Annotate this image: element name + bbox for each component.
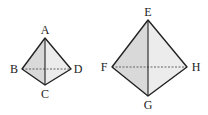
small-left-face bbox=[22, 38, 45, 85]
large-right-face bbox=[148, 20, 187, 96]
large-left-face bbox=[112, 20, 148, 96]
vertex-label-a: A bbox=[41, 23, 50, 37]
vertex-label-c: C bbox=[41, 87, 49, 101]
vertex-label-b: B bbox=[10, 62, 18, 76]
small-quadrilateral: A B C D bbox=[10, 23, 83, 101]
vertex-label-h: H bbox=[192, 60, 201, 74]
small-right-face bbox=[45, 38, 71, 85]
vertex-label-e: E bbox=[144, 5, 151, 19]
vertex-label-g: G bbox=[144, 98, 153, 112]
vertex-label-d: D bbox=[74, 62, 83, 76]
diagram-canvas: A B C D E F G H bbox=[0, 0, 208, 115]
vertex-label-f: F bbox=[101, 60, 108, 74]
large-quadrilateral: E F G H bbox=[101, 5, 201, 112]
